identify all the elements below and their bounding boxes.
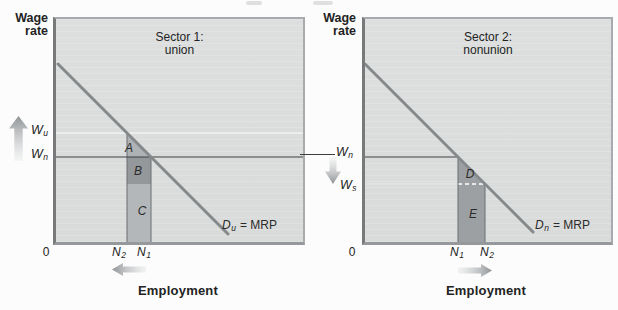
curve-label-sub: n <box>544 223 549 233</box>
region-e-label: E <box>465 208 481 221</box>
wu-base: W <box>31 123 43 137</box>
curve-label-sub: u <box>231 223 236 233</box>
region-b-label: B <box>130 165 146 178</box>
wn-sub: n <box>348 150 353 160</box>
tick-sub: 1 <box>146 250 151 260</box>
tick-base: N <box>480 245 489 259</box>
left-origin-label: 0 <box>38 246 54 259</box>
left-n2-tick: N2 <box>107 246 131 260</box>
right-n2-tick: N2 <box>475 246 499 260</box>
tick-base: N <box>137 245 146 259</box>
region-c-label: C <box>134 205 150 218</box>
curve-label-eq: = MRP <box>240 218 277 232</box>
left-y-axis-title: Wage rate <box>6 12 48 38</box>
employment-increase-arrow-icon <box>458 264 492 277</box>
sector2-title: Sector 2: nonunion <box>365 31 611 56</box>
wn-base: W <box>31 147 43 161</box>
right-y-axis-title-line2: rate <box>314 25 356 38</box>
curve-label-base: D <box>222 218 231 232</box>
sector1-plot-area: Sector 1: union A B C Du= MRP <box>53 17 305 245</box>
left-y-axis-title-line2: rate <box>6 25 48 38</box>
right-x-axis-title: Employment <box>416 284 556 298</box>
wu-label: WWu <box>24 124 48 138</box>
wn-connecting-line <box>300 154 335 155</box>
ws-label: Ws <box>340 179 366 193</box>
region-d-label: D <box>462 168 478 181</box>
employment-decrease-arrow-icon <box>112 263 146 276</box>
wn-sub: n <box>43 152 48 162</box>
tick-base: N <box>112 245 121 259</box>
cropped-text-artifact <box>313 1 333 5</box>
sector1-title-line1: Sector 1: <box>56 31 303 44</box>
sector2-plot-area: Sector 2: nonunion D E Dn= MRP <box>362 17 613 245</box>
union-demand-curve-label: Du= MRP <box>222 219 277 233</box>
curve-label-base: D <box>535 218 544 232</box>
figure-union-wage-two-sector-diagram: Sector 1: union A B C Du= MRP Sector 2: <box>0 0 618 310</box>
wu-sub: u <box>43 128 48 138</box>
ws-sub: s <box>352 183 356 193</box>
tick-base: N <box>450 245 459 259</box>
right-y-axis-title: Wage rate <box>314 12 356 38</box>
tick-sub: 2 <box>489 250 494 260</box>
ws-base: W <box>340 178 352 192</box>
curve-label-eq: = MRP <box>553 218 590 232</box>
right-n1-tick: N1 <box>445 246 469 260</box>
sector2-title-line2: nonunion <box>365 44 611 57</box>
sector2-title-line1: Sector 2: <box>365 31 611 44</box>
right-origin-label: 0 <box>344 246 360 259</box>
nonunion-demand-curve <box>365 64 533 232</box>
tick-sub: 2 <box>121 250 126 260</box>
nonunion-demand-curve-label: Dn= MRP <box>535 219 590 233</box>
sector1-title-line2: union <box>56 44 303 57</box>
wn-left-label: Wn <box>24 148 48 162</box>
wage-decrease-arrow-icon <box>325 157 341 184</box>
region-a-label: A <box>121 142 137 155</box>
cropped-text-artifact <box>246 1 262 5</box>
left-n1-tick: N1 <box>132 246 156 260</box>
left-x-axis-title: Employment <box>108 284 248 298</box>
tick-sub: 1 <box>459 250 464 260</box>
sector1-title: Sector 1: union <box>56 31 303 56</box>
